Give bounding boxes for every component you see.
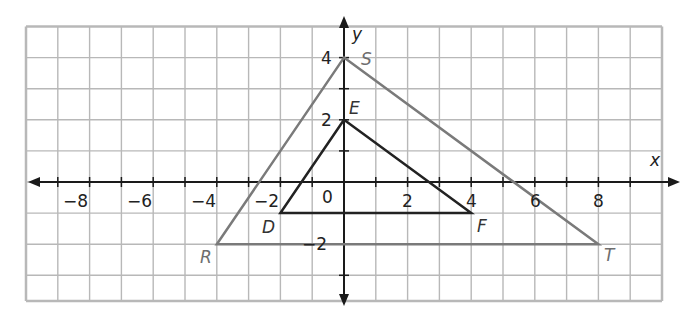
x-axis-label: x [649,150,661,170]
arrow-up-icon [339,16,349,28]
x-tick-label-2: 2 [402,191,413,211]
vertex-label-e: E [349,98,360,118]
vertex-label-t: T [604,245,616,265]
x-tick-label-neg8: −8 [63,191,88,211]
x-tick-label-neg2: −2 [254,191,279,211]
y-tick-label-4: 4 [321,48,332,68]
vertex-label-s: S [361,49,372,69]
vertex-label-r: R [200,247,212,267]
x-tick-label-neg6: −6 [127,191,152,211]
x-axis [28,177,680,187]
vertex-label-d: D [262,217,275,237]
y-axis-label: y [351,24,363,44]
origin-label: 0 [322,187,333,207]
x-tick-label-6: 6 [530,191,541,211]
coordinate-plane: x y 0 −8 −6 −4 −2 2 4 6 8 4 2 −2 S R T E… [0,0,686,317]
y-tick-label-neg2: −2 [302,234,327,254]
y-tick-label-2: 2 [321,110,332,130]
x-tick-label-8: 8 [593,191,604,211]
arrow-right-icon [668,177,680,187]
x-tick-label-neg4: −4 [191,191,216,211]
arrow-left-icon [28,177,40,187]
vertex-label-f: F [477,216,487,236]
x-tick-label-4: 4 [466,191,477,211]
